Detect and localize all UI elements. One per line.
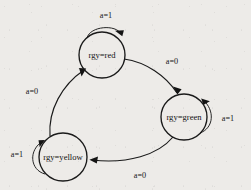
edge-label-self-loop-yellow: a=1: [11, 150, 23, 159]
fsm-diagram: a=0 a=0 a=0 a=1 a=1: [0, 0, 251, 190]
self-loop-green: a=1: [200, 99, 234, 133]
edge-label-red-to-green: a=0: [166, 57, 178, 66]
transition-yellow-to-red: a=0: [26, 68, 86, 136]
state-node-red[interactable]: rgy=red: [79, 32, 125, 78]
state-node-green[interactable]: rgy=green: [161, 94, 207, 140]
arrowhead-red-to-green: [173, 86, 182, 94]
arrowhead-green-to-yellow: [89, 157, 98, 164]
transition-green-to-yellow: a=0: [89, 137, 173, 180]
self-loop-path-green: [200, 100, 211, 133]
state-label-red: rgy=red: [88, 50, 116, 60]
edge-label-green-to-yellow: a=0: [134, 171, 146, 180]
edge-label-yellow-to-red: a=0: [26, 87, 38, 96]
edge-label-self-loop-red: a=1: [100, 11, 112, 20]
state-label-green: rgy=green: [166, 112, 202, 122]
edge-label-self-loop-green: a=1: [222, 114, 234, 123]
state-diagram-canvas: a=0 a=0 a=0 a=1 a=1: [0, 0, 251, 190]
state-label-yellow: rgy=yellow: [43, 152, 83, 162]
edge-path-yellow-to-red: [50, 70, 84, 136]
state-node-yellow[interactable]: rgy=yellow: [39, 133, 87, 181]
self-loop-yellow: a=1: [11, 140, 45, 174]
arrowhead-self-loop-red: [115, 30, 124, 36]
edge-path-green-to-yellow: [92, 137, 173, 161]
transition-red-to-green: a=0: [124, 57, 182, 95]
